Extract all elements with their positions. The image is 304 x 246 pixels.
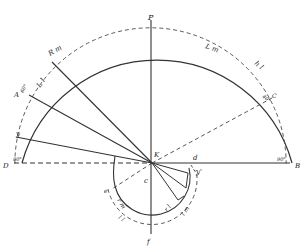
- label-e: e: [104, 187, 108, 194]
- label-c: c: [144, 177, 148, 185]
- radial-line-low-2: [152, 163, 186, 188]
- label-B: B: [294, 162, 300, 170]
- arc-label-Rm: R m: [46, 44, 63, 59]
- label-y-prime: y': [195, 168, 202, 176]
- dashed-line-Ke: [112, 163, 152, 189]
- arc-label-lm: l m: [179, 205, 190, 217]
- diagram-canvas: P B D f K c d y y' C A e L m h l R m L l…: [0, 0, 304, 246]
- radial-line-low-3: [152, 163, 178, 200]
- arc-label-hl: h l: [253, 59, 265, 71]
- label-C: C: [272, 92, 277, 99]
- radial-line-A: [29, 95, 152, 163]
- arc-label-Lm: L m: [203, 42, 220, 55]
- label-f: f: [146, 238, 151, 246]
- radial-line-Rm: [52, 62, 152, 163]
- arc-label-rm: r m: [116, 197, 127, 210]
- label-D: D: [2, 162, 9, 170]
- label-P: P: [147, 13, 154, 22]
- angle-label-C: 40°: [261, 93, 273, 104]
- angle-label-right-90: 90°: [277, 156, 286, 162]
- label-y: y: [15, 130, 21, 138]
- radial-line-low-5: [186, 173, 188, 188]
- label-A: A: [13, 91, 19, 99]
- outer-arc-solid: [22, 60, 292, 163]
- label-d: d: [193, 154, 198, 162]
- radial-line-y: [16, 137, 115, 156]
- dashed-line-KC: [152, 98, 272, 163]
- angle-label-A: 60°: [19, 82, 29, 93]
- angle-label-left-90: 90°: [13, 156, 22, 162]
- arc-label-Ll: L l: [35, 77, 47, 90]
- arc-label-rl: r l: [162, 203, 172, 213]
- arc-label-ll: l l: [117, 213, 126, 222]
- label-K: K: [153, 151, 160, 159]
